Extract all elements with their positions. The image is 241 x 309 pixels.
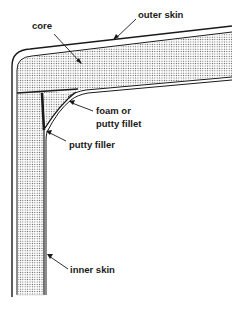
label-inner-skin: inner skin bbox=[70, 264, 115, 275]
label-outer-skin: outer skin bbox=[138, 9, 184, 20]
sandwich-panel-diagram: outer skin core foam or putty fillet put… bbox=[0, 0, 241, 309]
core-vertical bbox=[18, 92, 44, 295]
arrow-foam-fillet bbox=[69, 100, 93, 111]
vertical-inner-skin-line2 bbox=[46, 132, 47, 295]
label-putty-filler: putty filler bbox=[69, 139, 115, 150]
label-core: core bbox=[32, 20, 52, 31]
core-horizontal bbox=[18, 33, 232, 94]
label-putty-fillet: putty fillet bbox=[96, 118, 142, 129]
label-foam-or: foam or bbox=[96, 105, 131, 116]
arrow-inner-skin bbox=[47, 254, 68, 269]
arrow-putty-filler bbox=[46, 130, 66, 141]
